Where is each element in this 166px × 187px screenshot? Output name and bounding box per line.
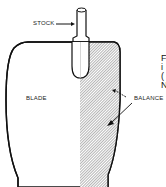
balance-label: BALANCE	[134, 95, 163, 101]
rudder-diagram	[0, 0, 166, 187]
blade-label: BLADE	[26, 95, 47, 101]
stock-shaft	[73, 10, 89, 42]
edge-text-4: N	[161, 81, 166, 90]
stock-top	[77, 8, 86, 12]
stock-label: STOCK	[33, 20, 55, 26]
